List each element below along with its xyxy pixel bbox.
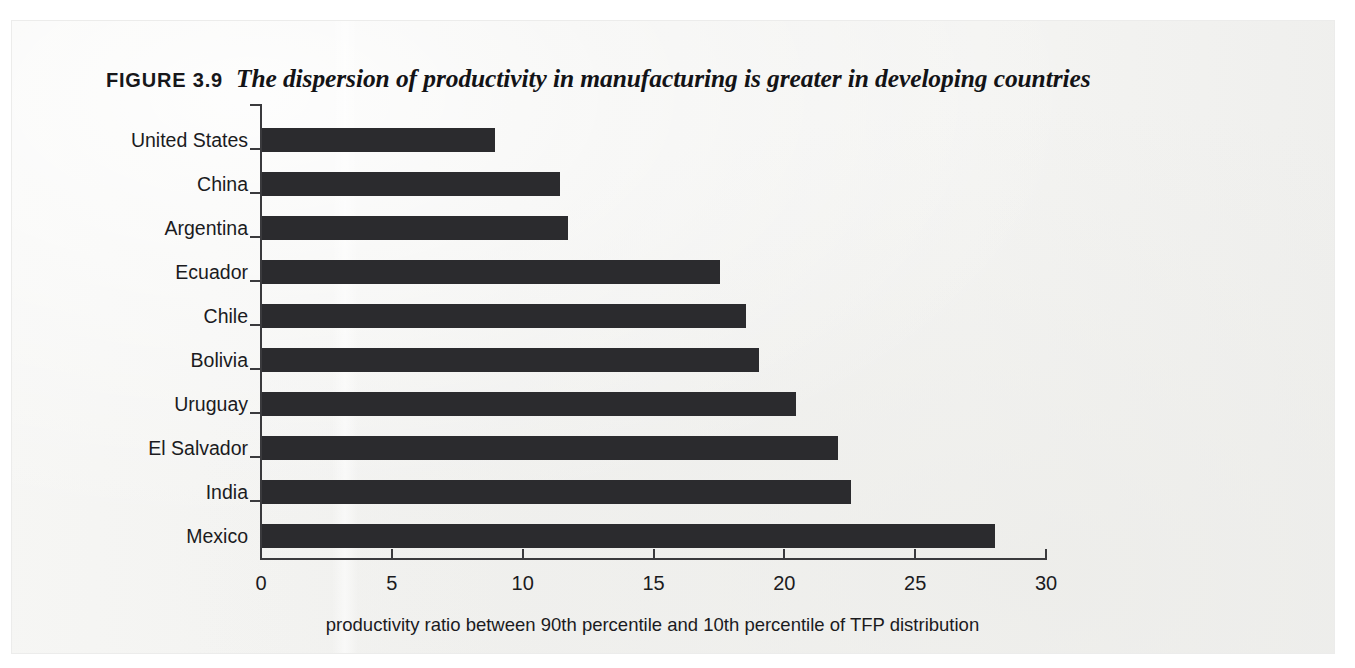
x-axis-tick [783, 549, 785, 559]
y-axis-category-label: Chile [48, 305, 248, 328]
x-axis-tick [522, 549, 524, 559]
x-axis-tick [653, 549, 655, 559]
page-surface: FIGURE 3.9The dispersion of productivity… [12, 21, 1334, 653]
x-axis-tick [391, 549, 393, 559]
y-axis-tick [250, 368, 260, 370]
x-axis-label: productivity ratio between 90th percenti… [260, 614, 1045, 636]
bar [262, 128, 495, 152]
x-axis-tick [260, 549, 262, 559]
x-axis-tick-label: 10 [493, 572, 553, 595]
bar [262, 480, 851, 504]
bar [262, 216, 568, 240]
bar [262, 260, 720, 284]
x-axis-tick-label: 20 [754, 572, 814, 595]
bar [262, 172, 560, 196]
y-axis-category-label: Argentina [48, 217, 248, 240]
y-axis-tick [250, 280, 260, 282]
y-axis-tick [250, 324, 260, 326]
bar [262, 436, 838, 460]
bar [262, 348, 759, 372]
y-axis-tick [250, 104, 260, 106]
bar [262, 524, 995, 548]
bar-chart: United StatesChinaArgentinaEcuadorChileB… [12, 21, 1334, 653]
x-axis-tick-label: 5 [362, 572, 422, 595]
y-axis-category-label: Mexico [48, 525, 248, 548]
bar [262, 304, 746, 328]
bar [262, 392, 796, 416]
x-axis-tick-label: 15 [624, 572, 684, 595]
y-axis-category-label: Ecuador [48, 261, 248, 284]
x-axis-tick-label: 25 [885, 572, 945, 595]
y-axis-tick [250, 148, 260, 150]
y-axis-tick [250, 236, 260, 238]
y-axis-category-label: United States [48, 129, 248, 152]
y-axis-tick [250, 412, 260, 414]
y-axis-tick [250, 456, 260, 458]
y-axis-tick [250, 500, 260, 502]
y-axis-category-label: Uruguay [48, 393, 248, 416]
x-axis-tick-label: 30 [1016, 572, 1076, 595]
x-axis-tick-label: 0 [231, 572, 291, 595]
y-axis-category-label: India [48, 481, 248, 504]
y-axis-tick [250, 192, 260, 194]
x-axis-tick [1045, 549, 1047, 559]
y-axis-category-label: Bolivia [48, 349, 248, 372]
y-axis-category-label: El Salvador [48, 437, 248, 460]
x-axis-tick [914, 549, 916, 559]
scanned-page: FIGURE 3.9The dispersion of productivity… [0, 0, 1355, 668]
y-axis-category-label: China [48, 173, 248, 196]
